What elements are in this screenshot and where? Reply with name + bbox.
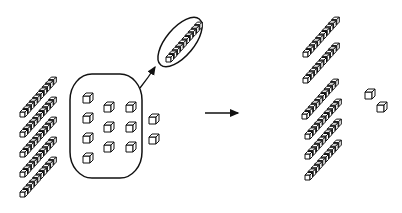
- rod-cube: [305, 132, 313, 140]
- rod-cube: [20, 190, 28, 198]
- unit-cube: [365, 89, 375, 99]
- rod-cube: [20, 150, 28, 158]
- unit-cube: [104, 102, 114, 112]
- unit-cube: [149, 114, 159, 124]
- after-unit-cubes: [365, 89, 387, 112]
- unit-cube: [104, 122, 114, 132]
- unit-cube: [83, 113, 93, 123]
- rod-cube: [166, 55, 174, 63]
- ten-rod: [305, 140, 341, 180]
- unit-cube: [126, 142, 136, 152]
- diagram-svg: [0, 0, 402, 213]
- rod-cube: [20, 110, 28, 118]
- unit-cube: [149, 134, 159, 144]
- rod-cube: [302, 112, 310, 120]
- rod-cube: [20, 170, 28, 178]
- unit-cube: [83, 153, 93, 163]
- rod-cube: [305, 173, 313, 181]
- bundle-arrow: [140, 67, 155, 88]
- after-rods-group: [302, 17, 341, 180]
- unit-cube: [377, 102, 387, 112]
- rod-cube: [303, 76, 311, 84]
- unit-cube: [104, 142, 114, 152]
- base-ten-regrouping-diagram: [0, 0, 402, 213]
- unit-cube: [83, 93, 93, 103]
- new-rod-bubble: [150, 10, 210, 74]
- unit-cube: [83, 133, 93, 143]
- circled-unit-cubes: [83, 93, 136, 163]
- unit-cube: [126, 122, 136, 132]
- rod-cube: [20, 130, 28, 138]
- before-rods-group: [20, 77, 56, 197]
- rod-cube: [303, 50, 311, 58]
- rod-cube: [305, 152, 313, 160]
- leftover-unit-cubes: [149, 114, 159, 144]
- unit-cube: [126, 102, 136, 112]
